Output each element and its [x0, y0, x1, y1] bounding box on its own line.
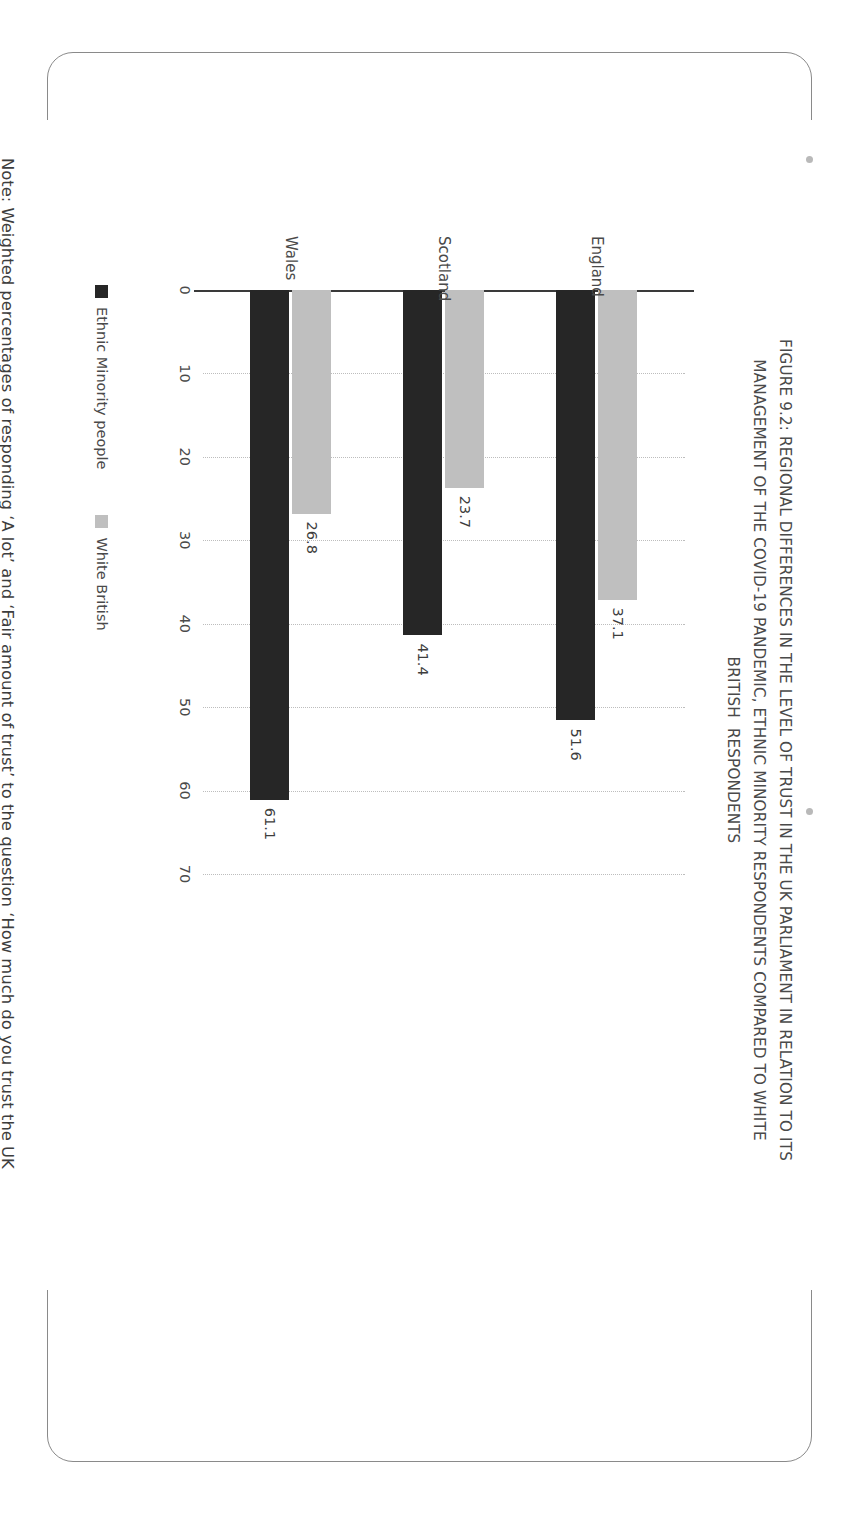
tick-label-10: 10 [177, 364, 193, 382]
legend-label: Ethnic Minority people [94, 307, 110, 469]
bar-england-minority [557, 290, 596, 720]
tick-label-40: 40 [177, 614, 193, 632]
figure-note-line-1: Note: Weighted percentages of responding… [0, 158, 20, 1318]
figure-title-line-2: MANAGEMENT OF THE COVID-19 PANDEMIC, ETH… [746, 160, 772, 1340]
figure-note: Note: Weighted percentages of responding… [0, 158, 20, 1318]
bar-scotland-white-british [446, 290, 485, 488]
figure-title-line-1: FIGURE 9.2: REGIONAL DIFFERENCES IN THE … [772, 160, 798, 1340]
figure-title: FIGURE 9.2: REGIONAL DIFFERENCES IN THE … [720, 160, 798, 1340]
figure-page: FIGURE 9.2: REGIONAL DIFFERENCES IN THE … [0, 0, 860, 1517]
category-label-scotland: Scotland [435, 236, 453, 301]
figure-title-line-3: BRITISH RESPONDENTS [720, 160, 746, 1340]
bar-chart: 51.637.141.423.761.126.8 010203040506070… [140, 228, 685, 928]
bar-value-label: 26.8 [304, 522, 320, 554]
category-label-england: England [588, 236, 606, 297]
bar-value-label: 37.1 [610, 608, 626, 640]
legend-swatch-icon [96, 285, 109, 298]
tick-label-50: 50 [177, 698, 193, 716]
category-label-wales: Wales [282, 236, 300, 280]
bar-wales-white-british [293, 290, 332, 514]
bar-value-label: 61.1 [262, 808, 278, 840]
tick-label-70: 70 [177, 865, 193, 883]
tick-label-60: 60 [177, 781, 193, 799]
frame-gap-bottom [38, 120, 56, 1290]
bar-value-label: 23.7 [457, 496, 473, 528]
legend-item-minority: Ethnic Minority people [94, 285, 110, 469]
bar-scotland-minority [404, 290, 443, 635]
bar-value-label: 51.6 [568, 728, 584, 760]
plot-area: 51.637.141.423.761.126.8 [203, 290, 685, 874]
tick-label-0: 0 [177, 285, 193, 294]
legend-swatch-icon [96, 515, 109, 528]
decorative-dot-left [806, 156, 813, 163]
bar-wales-minority [251, 290, 290, 800]
legend-label: White British [94, 537, 110, 630]
decorative-dot-right [806, 808, 813, 815]
legend-item-white-british: White British [94, 515, 110, 630]
frame-gap-top [802, 120, 820, 1290]
gridline [203, 874, 685, 875]
tick-label-30: 30 [177, 531, 193, 549]
bar-value-label: 41.4 [415, 643, 431, 675]
chart-legend: Ethnic Minority peopleWhite British [94, 285, 110, 631]
tick-label-20: 20 [177, 448, 193, 466]
bar-england-white-british [599, 290, 638, 600]
